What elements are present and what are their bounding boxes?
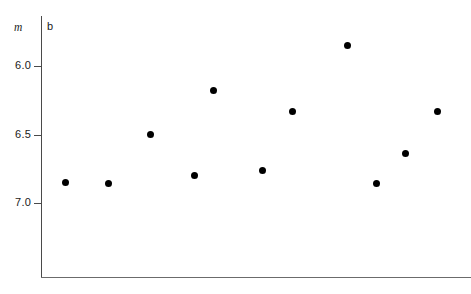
- scatter-plot-figure: m b 6.0 6.5 7.0: [0, 0, 471, 294]
- data-point: [434, 108, 441, 115]
- data-point: [191, 172, 198, 179]
- y-axis-title: m: [14, 22, 22, 33]
- data-point: [344, 42, 351, 49]
- y-tick-6-5: [34, 135, 42, 136]
- data-point: [402, 150, 409, 157]
- y-ticklabel-6-5: 6.5: [0, 129, 31, 140]
- y-ticklabel-7-0: 7.0: [0, 197, 31, 208]
- x-axis-line: [41, 277, 471, 278]
- y-tick-7-0: [34, 203, 42, 204]
- data-point: [289, 108, 296, 115]
- data-point: [210, 87, 217, 94]
- panel-label: b: [47, 21, 53, 32]
- data-point: [105, 180, 112, 187]
- plot-area: [0, 0, 471, 294]
- y-axis-line: [41, 16, 42, 278]
- y-tick-6-0: [34, 66, 42, 67]
- y-ticklabel-6-0: 6.0: [0, 60, 31, 71]
- data-point: [373, 180, 380, 187]
- data-point: [62, 179, 69, 186]
- data-point: [259, 167, 266, 174]
- data-point: [147, 131, 154, 138]
